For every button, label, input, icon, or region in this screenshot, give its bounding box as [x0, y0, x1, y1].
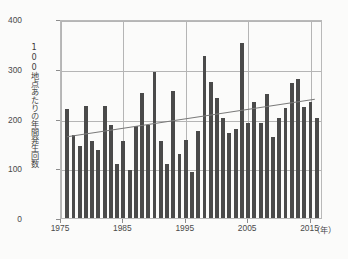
bar-1996: [190, 172, 194, 218]
y-axis-title: 100地点あたりの年間発生回数: [22, 42, 38, 212]
bar-2004: [240, 43, 244, 218]
bar-series: [61, 21, 321, 218]
bar-2003: [234, 129, 238, 218]
bar-1980: [90, 141, 94, 218]
y-tick-label-200: 200: [0, 115, 22, 125]
bar-2016: [315, 118, 319, 218]
bar-1977: [72, 135, 76, 218]
bar-2011: [284, 108, 288, 218]
chart-container: 100地点あたりの年間発生回数 0100200300400 1975198519…: [0, 0, 348, 259]
bar-2007: [259, 123, 263, 218]
bar-2010: [277, 118, 281, 218]
bar-1995: [184, 140, 188, 218]
y-tick-label-0: 0: [0, 214, 22, 224]
bar-1989: [146, 125, 150, 218]
bar-1976: [65, 109, 69, 218]
bar-1991: [159, 141, 163, 218]
bar-1978: [78, 146, 82, 218]
bar-1990: [153, 72, 157, 218]
bar-1983: [109, 125, 113, 218]
bar-2012: [290, 83, 294, 218]
bar-1994: [178, 154, 182, 218]
plot-area: [60, 20, 322, 219]
bar-2009: [271, 137, 275, 218]
bar-1999: [209, 82, 213, 218]
y-tick-label-300: 300: [0, 65, 22, 75]
bar-1985: [121, 141, 125, 218]
bar-1988: [140, 93, 144, 218]
bar-1981: [96, 150, 100, 218]
x-axis-unit-label: （年）: [312, 223, 336, 235]
bar-1992: [165, 164, 169, 218]
bar-1993: [171, 91, 175, 218]
x-tick-label-1975: 1975: [51, 223, 70, 233]
y-tick-label-100: 100: [0, 164, 22, 174]
x-tick-label-1985: 1985: [113, 223, 132, 233]
bar-2001: [221, 118, 225, 218]
bar-2000: [215, 98, 219, 218]
bar-2008: [265, 94, 269, 218]
bar-2015: [309, 102, 313, 218]
y-tick-label-400: 400: [0, 15, 22, 25]
bar-2013: [296, 79, 300, 218]
bar-1986: [128, 170, 132, 218]
bar-2002: [227, 133, 231, 218]
bar-1984: [115, 164, 119, 218]
bar-2006: [252, 102, 256, 218]
x-tick-label-1995: 1995: [175, 223, 194, 233]
bar-1979: [84, 106, 88, 218]
bar-1997: [196, 131, 200, 218]
bar-2014: [302, 107, 306, 218]
bar-1982: [103, 106, 107, 218]
bar-1987: [134, 126, 138, 218]
bar-2005: [246, 123, 250, 218]
x-tick-label-2005: 2005: [238, 223, 257, 233]
bar-1998: [203, 56, 207, 218]
